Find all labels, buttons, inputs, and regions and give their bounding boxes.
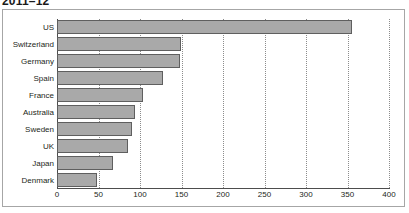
bar[interactable] <box>57 20 352 34</box>
x-tick-label: 200 <box>216 190 229 200</box>
category-label: France <box>0 91 54 100</box>
bar[interactable] <box>57 88 143 102</box>
bar[interactable] <box>57 139 128 153</box>
category-label: UK <box>0 142 54 151</box>
bar[interactable] <box>57 105 135 119</box>
x-tick-label: 150 <box>175 190 188 200</box>
category-label: Australia <box>0 108 54 117</box>
x-tick-label: 100 <box>133 190 146 200</box>
x-axis-line <box>57 188 390 189</box>
bar[interactable] <box>57 122 132 136</box>
bar[interactable] <box>57 156 113 170</box>
category-label: Spain <box>0 74 54 83</box>
category-label: US <box>0 23 54 32</box>
x-tick-label: 0 <box>55 190 59 200</box>
category-label: Germany <box>0 57 54 66</box>
bar-row[interactable] <box>57 88 389 102</box>
x-tick-label: 50 <box>94 190 103 200</box>
x-tick-label: 400 <box>382 190 395 200</box>
value-axis-tick-labels: 050100150200250300350400 <box>0 190 409 204</box>
category-label: Japan <box>0 159 54 168</box>
bar-row[interactable] <box>57 139 389 153</box>
plot-area <box>57 19 389 188</box>
bar-row[interactable] <box>57 173 389 187</box>
bar-row[interactable] <box>57 122 389 136</box>
x-tick-label: 250 <box>258 190 271 200</box>
x-tick-label: 300 <box>299 190 312 200</box>
bar[interactable] <box>57 37 181 51</box>
category-label: Sweden <box>0 125 54 134</box>
bar-row[interactable] <box>57 20 389 34</box>
gridline-400 <box>389 19 390 188</box>
bar[interactable] <box>57 54 180 68</box>
bar[interactable] <box>57 71 163 85</box>
category-label: Switzerland <box>0 40 54 49</box>
bar-row[interactable] <box>57 156 389 170</box>
bar-row[interactable] <box>57 105 389 119</box>
bar-row[interactable] <box>57 71 389 85</box>
bar-row[interactable] <box>57 54 389 68</box>
bar-row[interactable] <box>57 37 389 51</box>
chart-figure: 2011–12 USSwitzerlandGermanySpainFranceA… <box>0 0 409 213</box>
bar[interactable] <box>57 173 97 187</box>
chart-title: 2011–12 <box>2 0 49 8</box>
x-tick-label: 350 <box>341 190 354 200</box>
category-label: Denmark <box>0 176 54 185</box>
category-axis-labels: USSwitzerlandGermanySpainFranceAustralia… <box>0 19 54 188</box>
